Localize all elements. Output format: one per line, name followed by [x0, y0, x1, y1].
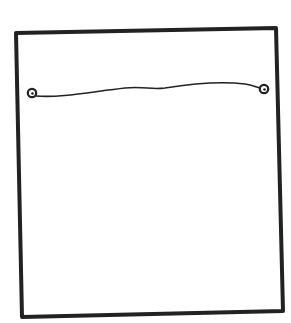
- frame-rectangle: [16, 28, 283, 317]
- sketch-canvas: [0, 0, 291, 323]
